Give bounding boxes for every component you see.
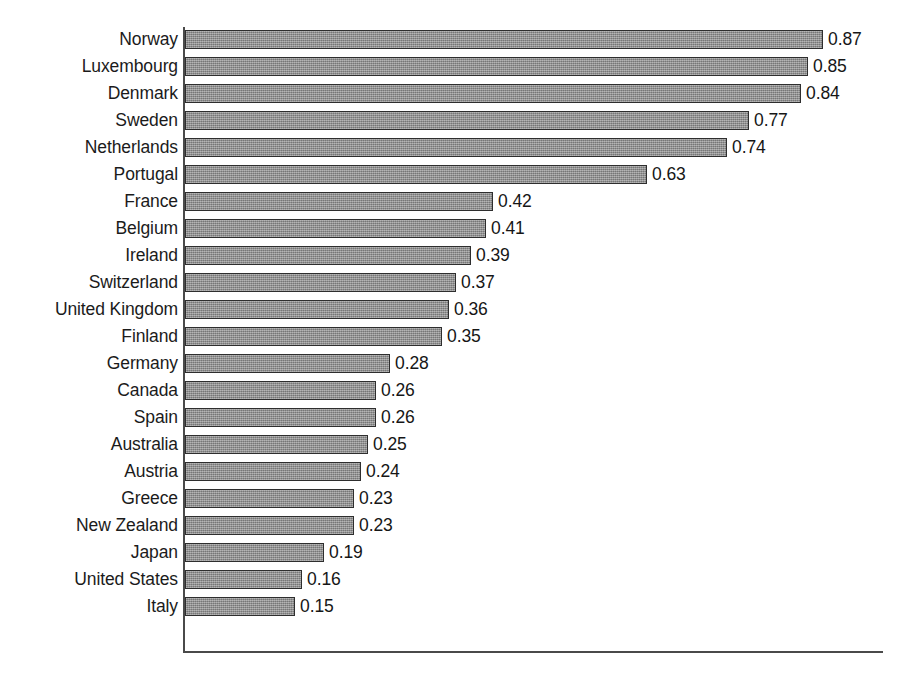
- bar-row: Norway0.87: [0, 26, 902, 53]
- bar: [185, 408, 376, 427]
- bar-value-label: 0.23: [359, 512, 393, 539]
- bar: [185, 138, 727, 157]
- bar-chart: Norway0.87Luxembourg0.85Denmark0.84Swede…: [0, 0, 902, 676]
- category-label: Australia: [0, 431, 178, 458]
- bar: [185, 489, 354, 508]
- bar-row: France0.42: [0, 188, 902, 215]
- category-label: Luxembourg: [0, 53, 178, 80]
- bar-value-label: 0.15: [300, 593, 334, 620]
- category-label: Spain: [0, 404, 178, 431]
- category-label: United Kingdom: [0, 296, 178, 323]
- category-label: Norway: [0, 26, 178, 53]
- bar-row: Luxembourg0.85: [0, 53, 902, 80]
- bar-value-label: 0.35: [447, 323, 481, 350]
- bar-row: Switzerland0.37: [0, 269, 902, 296]
- bar-value-label: 0.23: [359, 485, 393, 512]
- bar-row: Germany0.28: [0, 350, 902, 377]
- bar-row: Japan0.19: [0, 539, 902, 566]
- bar-row: Portugal0.63: [0, 161, 902, 188]
- bar-value-label: 0.28: [395, 350, 429, 377]
- bar: [185, 57, 808, 76]
- bar-value-label: 0.87: [828, 26, 862, 53]
- bar: [185, 435, 368, 454]
- bar: [185, 543, 324, 562]
- bar: [185, 246, 471, 265]
- bar: [185, 84, 801, 103]
- category-label: Belgium: [0, 215, 178, 242]
- bar-value-label: 0.39: [476, 242, 510, 269]
- category-label: Sweden: [0, 107, 178, 134]
- bar-row: Canada0.26: [0, 377, 902, 404]
- category-label: Austria: [0, 458, 178, 485]
- bar-row: Australia0.25: [0, 431, 902, 458]
- bar: [185, 570, 302, 589]
- bar: [185, 165, 647, 184]
- category-label: Canada: [0, 377, 178, 404]
- category-label: France: [0, 188, 178, 215]
- bar-row: New Zealand0.23: [0, 512, 902, 539]
- bar-row: Italy0.15: [0, 593, 902, 620]
- bar-value-label: 0.77: [754, 107, 788, 134]
- bar: [185, 354, 390, 373]
- category-label: Germany: [0, 350, 178, 377]
- bar-value-label: 0.26: [381, 377, 415, 404]
- bar: [185, 273, 456, 292]
- bar: [185, 192, 493, 211]
- bar-value-label: 0.63: [652, 161, 686, 188]
- category-label: Japan: [0, 539, 178, 566]
- bar: [185, 516, 354, 535]
- bar-row: Netherlands0.74: [0, 134, 902, 161]
- bar-value-label: 0.26: [381, 404, 415, 431]
- category-label: Portugal: [0, 161, 178, 188]
- bar: [185, 300, 449, 319]
- bar: [185, 30, 823, 49]
- bar-row: United Kingdom0.36: [0, 296, 902, 323]
- bar-row: Austria0.24: [0, 458, 902, 485]
- bar-value-label: 0.85: [813, 53, 847, 80]
- bar: [185, 219, 486, 238]
- bar-row: Denmark0.84: [0, 80, 902, 107]
- category-label: Switzerland: [0, 269, 178, 296]
- bar-row: Finland0.35: [0, 323, 902, 350]
- bar-value-label: 0.19: [329, 539, 363, 566]
- category-label: Denmark: [0, 80, 178, 107]
- bar-row: Greece0.23: [0, 485, 902, 512]
- category-label: Netherlands: [0, 134, 178, 161]
- bar: [185, 327, 442, 346]
- bar-rows-container: Norway0.87Luxembourg0.85Denmark0.84Swede…: [0, 0, 902, 676]
- bar-value-label: 0.25: [373, 431, 407, 458]
- bar-value-label: 0.41: [491, 215, 525, 242]
- bar-value-label: 0.42: [498, 188, 532, 215]
- category-label: Italy: [0, 593, 178, 620]
- bar-row: Sweden0.77: [0, 107, 902, 134]
- bar-value-label: 0.36: [454, 296, 488, 323]
- bar: [185, 462, 361, 481]
- bar-row: Spain0.26: [0, 404, 902, 431]
- bar: [185, 111, 749, 130]
- bar-row: Belgium0.41: [0, 215, 902, 242]
- bar: [185, 597, 295, 616]
- bar-value-label: 0.16: [307, 566, 341, 593]
- bar-value-label: 0.37: [461, 269, 495, 296]
- category-label: Ireland: [0, 242, 178, 269]
- category-label: New Zealand: [0, 512, 178, 539]
- bar: [185, 381, 376, 400]
- category-label: United States: [0, 566, 178, 593]
- bar-value-label: 0.24: [366, 458, 400, 485]
- category-label: Greece: [0, 485, 178, 512]
- bar-row: United States0.16: [0, 566, 902, 593]
- category-label: Finland: [0, 323, 178, 350]
- bar-value-label: 0.74: [732, 134, 766, 161]
- bar-row: Ireland0.39: [0, 242, 902, 269]
- bar-value-label: 0.84: [806, 80, 840, 107]
